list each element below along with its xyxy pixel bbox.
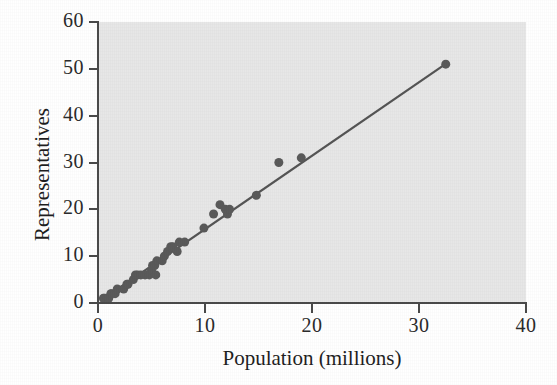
y-axis-tick-label: 60 (18, 9, 84, 29)
y-axis-tick (89, 115, 98, 117)
data-point (173, 247, 182, 256)
plot-area (98, 22, 526, 303)
scatter-plot-figure: 0102030405060 010203040 Population (mill… (0, 0, 557, 385)
data-point (225, 205, 234, 214)
x-axis-tick (204, 303, 206, 313)
y-axis-title: Representatives (30, 55, 55, 295)
x-axis-tick-label: 40 (496, 314, 556, 337)
x-axis-tick (418, 303, 420, 313)
plot-svg (98, 22, 526, 303)
x-axis-tick (311, 303, 313, 313)
data-point (252, 191, 261, 200)
data-point (297, 153, 306, 162)
x-axis-tick (525, 303, 527, 313)
y-axis-tick (89, 68, 98, 70)
y-axis-tick-label-text: 60 (18, 9, 84, 32)
data-point (441, 60, 450, 69)
x-axis-title: Population (millions) (98, 346, 526, 371)
data-point (209, 210, 218, 219)
y-axis-tick (89, 255, 98, 257)
x-axis-tick (97, 303, 99, 313)
y-axis-tick (89, 21, 98, 23)
y-axis-tick (89, 208, 98, 210)
data-point (199, 224, 208, 233)
x-axis-tick-label: 10 (175, 314, 235, 337)
x-axis-tick-label: 20 (282, 314, 342, 337)
x-axis-tick-label: 0 (68, 314, 128, 337)
data-point (180, 238, 189, 247)
data-point (274, 158, 283, 167)
x-axis-tick-label: 30 (389, 314, 449, 337)
data-point (151, 270, 160, 279)
y-axis-tick (89, 162, 98, 164)
